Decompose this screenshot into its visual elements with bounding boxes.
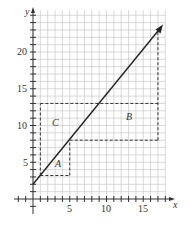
coordinate-diagram: 5 10 15 5 10 15 20 x y A B C [0, 0, 190, 228]
x-axis-label: x [172, 199, 178, 210]
y-tick-label-20: 20 [17, 46, 27, 57]
x-ticks [18, 196, 165, 202]
y-axis-arrow-icon [31, 7, 35, 13]
region-label-b: B [126, 111, 132, 122]
y-axis-label: y [24, 6, 30, 17]
x-tick-label-10: 10 [101, 203, 111, 214]
x-tick-label-15: 15 [138, 203, 148, 214]
y-tick-label-5: 5 [23, 157, 28, 168]
grid [33, 10, 165, 199]
region-label-c: C [52, 117, 59, 128]
region-label-a: A [54, 158, 62, 169]
x-tick-label-5: 5 [67, 203, 72, 214]
y-tick-label-10: 10 [17, 120, 27, 131]
y-tick-label-15: 15 [17, 83, 27, 94]
